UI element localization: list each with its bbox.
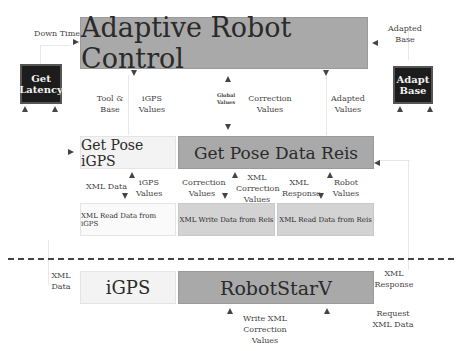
label-igps-values-top: iGPS Values [138,93,166,115]
adaptive-robot-control-label: Adaptive Robot Control [81,12,367,74]
arrow-left-icon [374,160,380,166]
connector [40,45,70,46]
adaptive-robot-control-box: Adaptive Robot Control [80,17,368,69]
get-pose-igps-box: Get Pose iGPS [80,136,176,169]
arrow-right-icon [73,39,79,45]
arrow-up-icon [52,106,58,112]
adapt-base-box: Adapt Base [393,66,433,104]
connector [326,75,327,135]
label-xml-response-bottom: XML Response [374,268,414,290]
xml-read-igps-label: XML Read Data from iGPS [81,212,175,228]
arrow-down-icon [222,193,228,199]
get-pose-igps-label: Get Pose iGPS [81,137,175,169]
arrow-up-icon [225,76,231,82]
robotstarv-box: RobotStarV [178,271,374,304]
arrow-up-icon [22,106,28,112]
robotstarv-label: RobotStarV [220,277,332,299]
label-xml-data-mid: XML Data [86,181,127,192]
dashed-divider [8,258,454,260]
label-xml-correction-values: XML Correction Values [236,172,278,205]
get-latency-label: Get Latency [19,73,63,96]
label-robot-values: Robot Values [332,177,360,199]
arrow-right-icon [68,149,74,155]
arrow-down-icon [122,193,128,199]
xml-read-reis-box: XML Read Data from Reis [277,203,374,236]
connector [408,160,409,270]
label-xml-data-bottom: XML Data [50,270,72,292]
label-tool-base: Tool & Base [96,93,124,115]
xml-read-reis-label: XML Read Data from Reis [279,216,372,224]
get-pose-reis-box: Get Pose Data Reis [178,136,374,169]
label-correction-values-mid: Correction Values [182,177,222,199]
label-adapted-base: Adapted Base [385,23,425,45]
xml-read-igps-box: XML Read Data from iGPS [80,203,176,236]
xml-write-reis-label: XML Write Data from Reis [180,216,274,224]
xml-write-reis-box: XML Write Data from Reis [178,203,275,236]
arrow-up-icon [397,106,403,112]
arrow-down-icon [318,193,324,199]
label-igps-values-mid: iGPS Values [136,177,162,199]
connector [48,240,49,285]
label-global-values: Global Values [213,92,239,106]
arrow-up-icon [324,308,330,314]
arrow-up-icon [427,106,433,112]
get-pose-reis-label: Get Pose Data Reis [194,143,358,163]
label-write-xml-correction: Write XML Correction Values [232,313,298,346]
arrow-left-icon [372,40,378,46]
connector [40,45,41,65]
adapt-base-label: Adapt Base [395,74,431,97]
arrow-down-icon [323,70,329,76]
igps-label: iGPS [106,277,151,298]
label-xml-response-mid: XML Response [282,177,316,199]
arrow-down-icon [131,70,137,76]
label-down-time: Down Time [34,28,80,39]
label-correction-values-top: Correction Values [248,93,292,115]
arrow-down-icon [225,124,231,130]
label-request-xml-data: Request XML Data [370,308,416,330]
connector [128,75,129,135]
label-adapted-values: Adapted Values [330,93,366,115]
igps-box: iGPS [80,271,176,304]
get-latency-box: Get Latency [20,64,62,104]
arrow-up-icon [129,172,135,178]
connector [375,160,410,161]
